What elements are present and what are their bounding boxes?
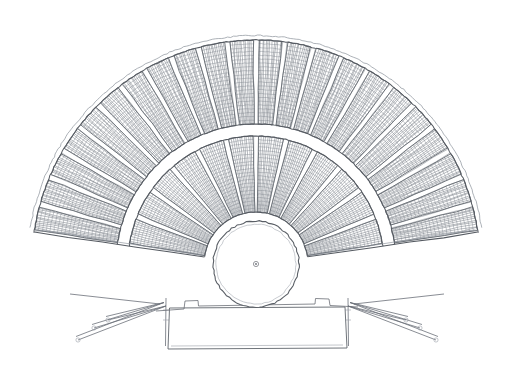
plan-canvas [0,0,506,378]
orchestra [213,221,300,308]
theatre-plan-drawing: Ancient Greek Theatre — Plan [0,0,506,378]
